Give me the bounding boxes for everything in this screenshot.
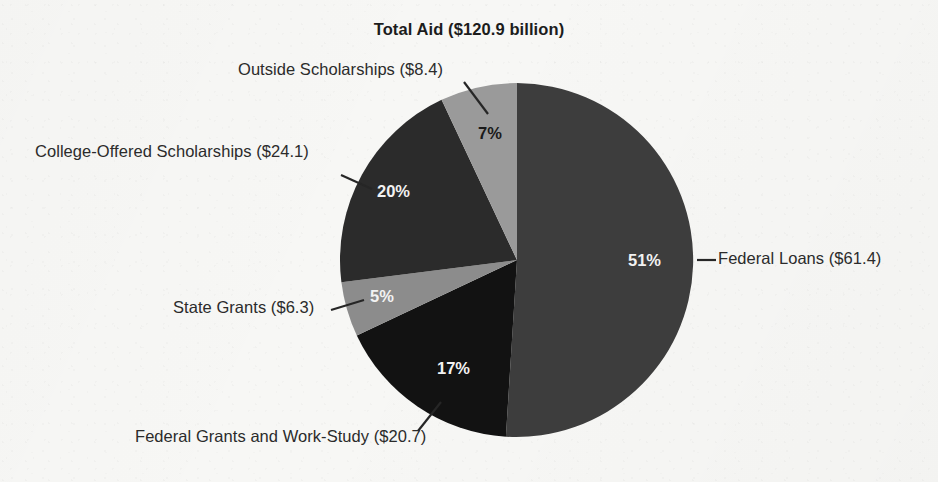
callout-label-outside-scholarships: Outside Scholarships ($8.4) [238, 60, 443, 79]
slice-percent-outside-scholarships: 7% [478, 124, 502, 143]
pie-slice-federal-loans[interactable] [506, 83, 693, 437]
slice-percent-federal-loans: 51% [628, 251, 661, 270]
callout-label-federal-grants-work-study: Federal Grants and Work-Study ($20.7) [135, 427, 426, 446]
chart-page: Total Aid ($120.9 billion) Outside Schol… [0, 0, 938, 482]
slice-percent-college-offered-scholarships: 20% [377, 182, 410, 201]
pie-chart-graphic [0, 0, 938, 482]
callout-label-state-grants: State Grants ($6.3) [173, 298, 314, 317]
slice-percent-state-grants: 5% [370, 287, 394, 306]
callout-label-federal-loans: Federal Loans ($61.4) [718, 249, 881, 268]
slice-percent-federal-grants-work-study: 17% [437, 359, 470, 378]
callout-label-college-offered-scholarships: College-Offered Scholarships ($24.1) [35, 142, 309, 161]
